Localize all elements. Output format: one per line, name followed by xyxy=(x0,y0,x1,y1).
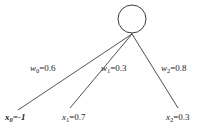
weight-value-w1: 0.3 xyxy=(115,63,126,73)
input-label-x0: x0=-1 xyxy=(5,113,25,123)
weight-value-w2: 0.8 xyxy=(175,63,186,73)
weight-label-w2: w2=0.8 xyxy=(161,64,187,74)
input-value-x0: -1 xyxy=(18,112,26,122)
input-value-x2: 0.3 xyxy=(178,112,189,122)
weight-label-w1: w1=0.3 xyxy=(101,64,127,74)
node-group xyxy=(118,5,146,34)
output-neuron-icon xyxy=(118,5,146,33)
input-value-x1: 0.7 xyxy=(74,112,85,122)
input-label-x2: x2=0.3 xyxy=(166,113,190,123)
weight-value-w0: 0.6 xyxy=(44,63,55,73)
perceptron-diagram: w0=0.6 w1=0.3 w2=0.8 x0=-1 x1=0.7 x2=0.3 xyxy=(0,0,204,132)
input-label-x1: x1=0.7 xyxy=(62,113,86,123)
weight-label-w0: w0=0.6 xyxy=(30,64,56,74)
